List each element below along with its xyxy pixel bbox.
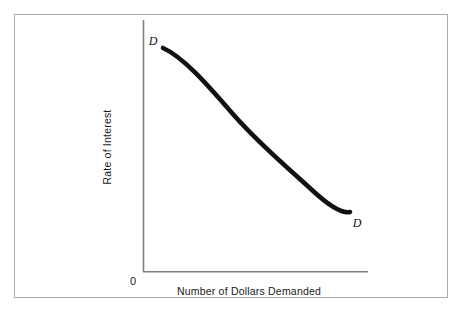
curve-label-end: D <box>353 216 362 231</box>
x-axis-label: Number of Dollars Demanded <box>177 285 321 297</box>
origin-label: 0 <box>130 275 136 287</box>
figure-root: Rate of Interest Number of Dollars Deman… <box>0 0 464 312</box>
curve-label-start: D <box>149 34 158 49</box>
figure-frame <box>14 14 448 298</box>
y-axis-label: Rate of Interest <box>101 110 113 185</box>
